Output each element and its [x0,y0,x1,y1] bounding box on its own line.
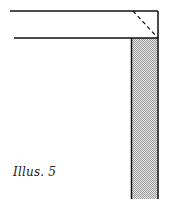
illustration-caption: Illus. 5 [13,165,56,179]
vertical-board [131,38,158,199]
miter-dashed-line [133,11,158,38]
